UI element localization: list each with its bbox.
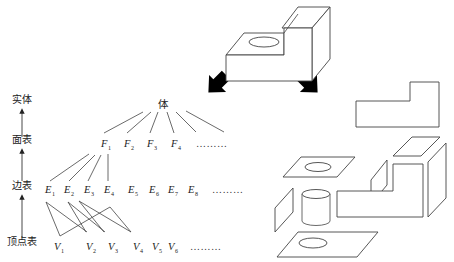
face-node: F1 bbox=[100, 138, 111, 151]
tree-link bbox=[186, 111, 224, 132]
tree-link bbox=[60, 207, 110, 236]
edge-node: E5 bbox=[127, 184, 138, 197]
face-node: F2 bbox=[123, 138, 134, 151]
vertex-node: V2 bbox=[86, 241, 96, 254]
tree-link bbox=[110, 207, 131, 232]
face-left bbox=[275, 188, 293, 232]
face-ellipsis: ……… bbox=[196, 138, 228, 149]
edge-node: E3 bbox=[83, 184, 94, 197]
vertex-node: V1 bbox=[54, 241, 64, 254]
root-node-solid: 体 bbox=[158, 98, 169, 110]
face-bottom-hole bbox=[277, 232, 378, 257]
face-node: F4 bbox=[170, 138, 181, 151]
face-node: F3 bbox=[146, 138, 157, 151]
face-top-hole-ellipse bbox=[305, 163, 331, 172]
tree-link bbox=[68, 202, 105, 232]
tree-link bbox=[88, 155, 101, 181]
vertex-node: V3 bbox=[108, 241, 118, 254]
tree-link bbox=[104, 112, 143, 133]
edge-node: E2 bbox=[63, 184, 74, 197]
tree-link bbox=[127, 112, 151, 133]
exploded-faces bbox=[275, 82, 446, 257]
cylinder-face bbox=[302, 190, 330, 226]
tree-link bbox=[150, 112, 158, 133]
vertex-node: V6 bbox=[168, 241, 178, 254]
vertex-node: V5 bbox=[152, 241, 162, 254]
face-tall-top bbox=[393, 137, 440, 156]
tree-links bbox=[46, 111, 224, 236]
face-bottom-hole-ellipse bbox=[299, 238, 327, 248]
level-label-solid: 实体 bbox=[12, 93, 32, 105]
edge-node: E7 bbox=[167, 184, 178, 197]
face-tall-side bbox=[428, 143, 446, 217]
tree-link bbox=[79, 201, 131, 232]
edge-node: E6 bbox=[148, 184, 159, 197]
edge-node: E8 bbox=[187, 184, 198, 197]
edge-node: E4 bbox=[103, 184, 114, 197]
edge-ellipsis: ……… bbox=[212, 184, 244, 195]
vertex-node: V4 bbox=[133, 241, 143, 254]
solid-object-3d bbox=[226, 7, 330, 81]
tree-link bbox=[50, 154, 89, 181]
tree-link bbox=[167, 112, 174, 133]
edge-node: E1 bbox=[44, 184, 55, 197]
vertex-ellipsis: ……… bbox=[190, 241, 222, 252]
hole-ellipse bbox=[249, 37, 279, 47]
face-l-back bbox=[356, 82, 439, 127]
solid-model-data-structure-diagram: 实体面表边表顶点表 体F1F2F3F4………E1E2E3E4E5E6E7E8……… bbox=[0, 0, 454, 262]
